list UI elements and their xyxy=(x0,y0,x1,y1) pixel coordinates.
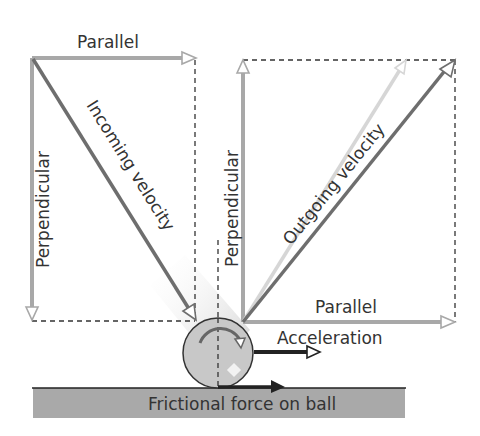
incoming-velocity-arrow xyxy=(33,59,196,320)
right-perpendicular-label: Perpendicular xyxy=(222,150,242,267)
left-parallel-arrow xyxy=(32,52,196,64)
ball xyxy=(183,318,253,388)
outgoing-velocity-arrow xyxy=(243,60,455,322)
left-parallel-label: Parallel xyxy=(77,32,139,52)
frictional-force-label: Frictional force on ball xyxy=(148,394,336,414)
outgoing-velocity-label: Outgoing velocity xyxy=(279,119,389,248)
right-parallel-label: Parallel xyxy=(315,297,377,317)
right-parallel-arrow xyxy=(243,316,455,328)
left-perpendicular-label: Perpendicular xyxy=(33,151,53,268)
acceleration-label: Acceleration xyxy=(277,328,383,348)
ball-bounce-diagram: Parallel Perpendicular Incoming velocity… xyxy=(0,0,480,436)
